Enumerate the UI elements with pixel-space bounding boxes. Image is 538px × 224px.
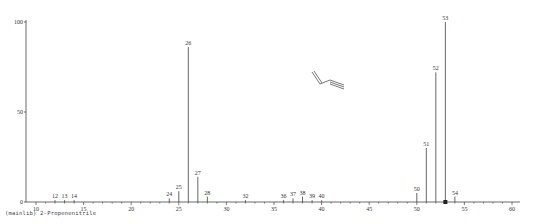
- compound-caption: (mainlib) 2-Propenenitrile: [5, 210, 96, 216]
- peak-label: 28: [204, 190, 210, 196]
- peak-label: 40: [319, 193, 325, 199]
- peak-label: 53: [442, 15, 448, 21]
- peak-label: 24: [166, 191, 172, 197]
- molecule-structure-icon: [312, 71, 344, 89]
- peak-label: 32: [242, 193, 248, 199]
- x-tick-label: 45: [366, 206, 372, 212]
- peak-label: 26: [185, 40, 191, 46]
- y-tick-label: 50: [17, 109, 23, 115]
- x-tick-label: 55: [461, 206, 467, 212]
- x-tick-label: 50: [414, 206, 420, 212]
- peak-label: 36: [281, 193, 287, 199]
- peak-label: 54: [452, 190, 458, 196]
- peak-label: 39: [309, 193, 315, 199]
- x-tick-label: 25: [176, 206, 182, 212]
- peak-label: 13: [62, 193, 68, 199]
- peak-label: 27: [195, 170, 201, 176]
- mass-spectrum-chart: 050100 1015202530354045505560 1213142425…: [0, 0, 538, 224]
- peak-label: 38: [300, 190, 306, 196]
- peak-label: 51: [423, 141, 429, 147]
- y-tick-label: 0: [20, 199, 23, 205]
- peak-label: 25: [176, 184, 182, 190]
- peak-label: 50: [414, 186, 420, 192]
- axes: [26, 20, 520, 202]
- molecular-ion-marker: [443, 200, 447, 204]
- y-axis-ticks: 050100: [14, 19, 26, 205]
- x-tick-label: 35: [271, 206, 277, 212]
- peaks: 12131424252627283236373839405051525354: [52, 15, 458, 204]
- y-tick-label: 100: [14, 19, 23, 25]
- x-tick-label: 30: [223, 206, 229, 212]
- x-tick-label: 60: [509, 206, 515, 212]
- x-axis-ticks: 1015202530354045505560: [33, 202, 515, 212]
- x-tick-label: 40: [319, 206, 325, 212]
- x-tick-label: 20: [128, 206, 134, 212]
- peak-label: 12: [52, 193, 58, 199]
- peak-label: 14: [71, 193, 77, 199]
- peak-label: 37: [290, 191, 296, 197]
- peak-label: 52: [433, 65, 439, 71]
